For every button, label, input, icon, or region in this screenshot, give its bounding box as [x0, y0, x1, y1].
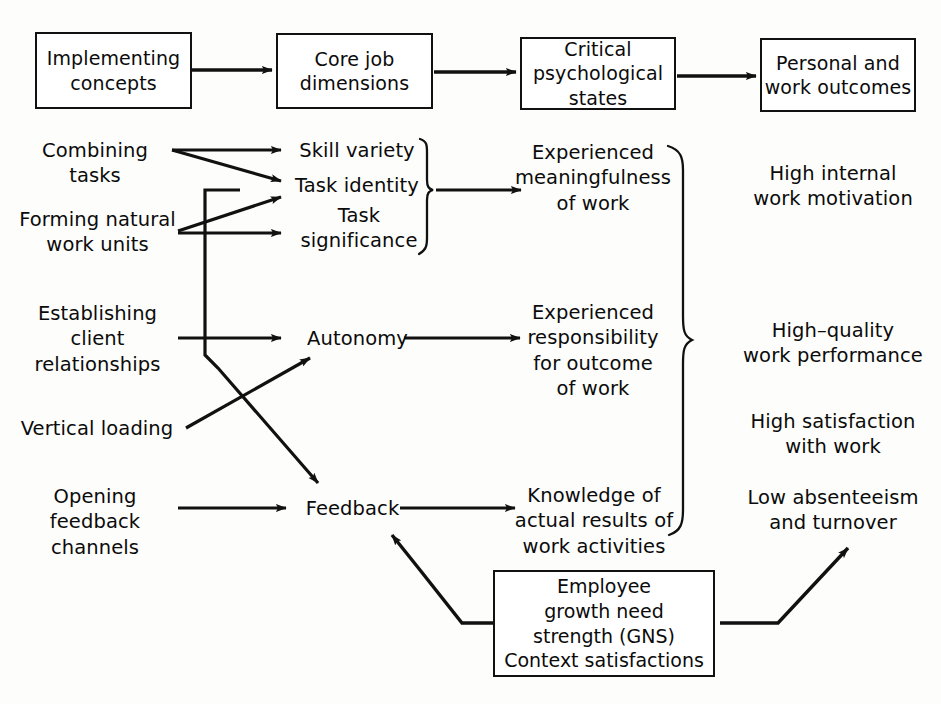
- header-box-core-job-dimensions[interactable]: Core job dimensions: [276, 33, 433, 109]
- job-characteristics-model-diagram: Implementing concepts Core job dimension…: [0, 0, 941, 704]
- node-vertical-loading[interactable]: Vertical loading: [12, 416, 182, 441]
- node-knowledge-of-actual-results-of-work-activities[interactable]: Knowledge of actual results of work acti…: [508, 483, 680, 559]
- node-establishing-client-relationships[interactable]: Establishing client relationships: [15, 301, 180, 377]
- node-high-satisfaction-with-work[interactable]: High satisfaction with work: [738, 409, 928, 460]
- arrow-gns-to-outcomes: [720, 548, 848, 623]
- node-autonomy[interactable]: Autonomy: [305, 326, 410, 351]
- moderator-box-employee-growth-need-strength[interactable]: Employee growth need strength (GNS) Cont…: [493, 570, 715, 677]
- node-feedback[interactable]: Feedback: [300, 496, 405, 521]
- arrow-forming-natural-work-units-to-task-identity: [178, 197, 281, 231]
- node-opening-feedback-channels[interactable]: Opening feedback channels: [6, 484, 184, 560]
- node-combining-tasks[interactable]: Combining tasks: [15, 138, 175, 189]
- arrow-combining-tasks-to-task-identity: [172, 150, 281, 181]
- arrow-vertical-loading-to-autonomy: [186, 358, 310, 428]
- header-box-implementing-concepts[interactable]: Implementing concepts: [35, 32, 192, 109]
- node-low-absenteeism-and-turnover[interactable]: Low absenteeism and turnover: [738, 485, 928, 536]
- header-box-personal-and-work-outcomes[interactable]: Personal and work outcomes: [760, 38, 916, 112]
- page-bottom-caption: [0, 688, 941, 704]
- node-experienced-meaningfulness-of-work[interactable]: Experienced meaningfulness of work: [510, 140, 676, 216]
- node-experienced-responsibility-for-outcome-of-work[interactable]: Experienced responsibility for outcome o…: [510, 300, 676, 401]
- node-task-significance[interactable]: Task significance: [295, 203, 423, 254]
- node-forming-natural-work-units[interactable]: Forming natural work units: [15, 207, 180, 258]
- node-task-identity[interactable]: Task identity: [293, 173, 421, 198]
- node-high-quality-work-performance[interactable]: High–quality work performance: [738, 318, 928, 369]
- header-box-critical-psychological-states[interactable]: Critical psychological states: [520, 37, 676, 110]
- node-skill-variety[interactable]: Skill variety: [293, 138, 421, 163]
- node-high-internal-work-motivation[interactable]: High internal work motivation: [738, 161, 928, 212]
